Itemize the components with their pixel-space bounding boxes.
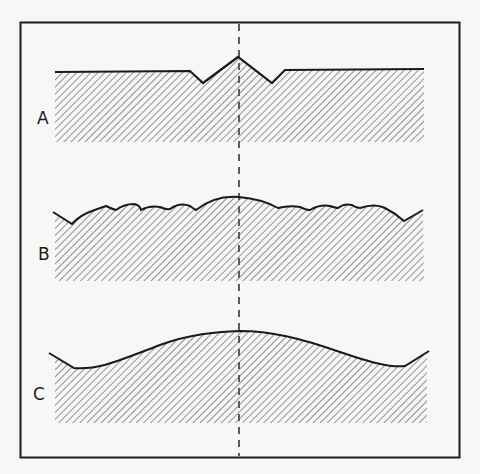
profile-c: C: [33, 331, 429, 423]
diagram-canvas: A B C: [0, 0, 480, 474]
profile-a-label: A: [37, 108, 49, 128]
profile-b-hatch: [53, 197, 424, 281]
profile-c-label: C: [33, 384, 45, 404]
profile-b: B: [38, 197, 424, 281]
profile-a: A: [37, 57, 424, 142]
profile-c-hatch: [49, 331, 429, 423]
profile-b-label: B: [38, 244, 50, 264]
